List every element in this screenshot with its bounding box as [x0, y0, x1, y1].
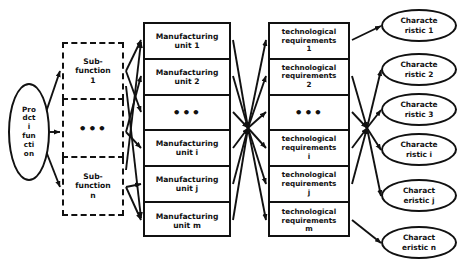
characteristic-label-line: Characte [400, 16, 437, 25]
technological-requirement-label-line: 1 [306, 45, 311, 54]
manufacturing-unit-label-line: Manufacturing [156, 139, 219, 148]
characteristic-label-line: Charact [403, 233, 435, 242]
process-flow-diagram: Pro dct i fun cti on Sub- function 1 •••… [0, 0, 463, 264]
characteristic-label-line: ristic 3 [405, 110, 434, 119]
subfunction-label-line: n [90, 191, 95, 200]
characteristic-label-line: Characte [400, 100, 437, 109]
technological-requirement-label-line: m [305, 225, 313, 234]
characteristic-label-line: ristic 2 [405, 70, 434, 79]
technological-requirement-cell[interactable]: technological requirements 1 [270, 24, 348, 60]
ellipsis-icon: ••• [78, 122, 107, 135]
technological-requirement-cell[interactable]: technological requirements 2 [270, 60, 348, 96]
characteristic-node[interactable]: Charact eristic n [381, 226, 457, 259]
characteristic-label-line: Charact [403, 186, 435, 195]
characteristic-node[interactable]: Characte ristic i [381, 133, 457, 166]
subfunction-cell[interactable]: Sub- function 1 [62, 42, 124, 100]
subfunction-label-line: Sub- [83, 172, 102, 181]
manufacturing-unit-label-line: unit j [176, 184, 198, 193]
characteristic-node[interactable]: Charact eristic j [381, 179, 457, 212]
characteristic-node[interactable]: Characte ristic 2 [381, 53, 457, 86]
manufacturing-unit-label-line: Manufacturing [156, 32, 219, 41]
subfunction-label-line: 1 [90, 76, 95, 85]
manufacturing-unit-cell-ellipsis[interactable]: ••• [145, 96, 229, 132]
manufacturing-unit-label-line: Manufacturing [156, 68, 219, 77]
manufacturing-unit-label-line: unit m [173, 221, 201, 230]
subfunction-cell-ellipsis[interactable]: ••• [62, 100, 124, 158]
product-function-node[interactable]: Pro dct i fun cti on [8, 83, 50, 181]
subfunction-cell[interactable]: Sub- function n [62, 158, 124, 216]
node-layer: Pro dct i fun cti on Sub- function 1 •••… [0, 0, 463, 264]
characteristic-node[interactable]: Characte ristic 1 [381, 9, 457, 42]
product-function-line: on [24, 150, 34, 159]
technological-requirement-cell-ellipsis[interactable]: ••• [270, 96, 348, 132]
manufacturing-unit-cell[interactable]: Manufacturing unit 1 [145, 24, 229, 60]
ellipsis-icon: ••• [172, 106, 201, 119]
characteristic-label-line: Characte [400, 60, 437, 69]
manufacturing-unit-cell[interactable]: Manufacturing unit i [145, 131, 229, 167]
technological-requirement-cell[interactable]: technological requirements j [270, 167, 348, 203]
characteristic-node[interactable]: Characte ristic 3 [381, 93, 457, 126]
characteristic-label-line: ristic 1 [405, 26, 434, 35]
characteristic-label-line: ristic i [406, 150, 432, 159]
technological-requirement-label-line: 2 [306, 81, 311, 90]
manufacturing-unit-cell[interactable]: Manufacturing unit m [145, 203, 229, 239]
ellipsis-icon: ••• [294, 106, 323, 119]
manufacturing-unit-column: Manufacturing unit 1 Manufacturing unit … [143, 22, 231, 237]
technological-requirement-label-line: j [308, 189, 310, 198]
characteristic-label-line: eristic j [403, 196, 434, 205]
technological-requirement-column: technological requirements 1 technologic… [268, 22, 350, 237]
technological-requirement-cell[interactable]: technological requirements i [270, 131, 348, 167]
subfunction-label-line: function [75, 66, 110, 75]
manufacturing-unit-cell[interactable]: Manufacturing unit 2 [145, 60, 229, 96]
manufacturing-unit-label-line: unit i [176, 148, 198, 157]
manufacturing-unit-label-line: unit 1 [175, 41, 200, 50]
manufacturing-unit-label-line: Manufacturing [156, 212, 219, 221]
characteristic-label-line: eristic n [402, 243, 436, 252]
technological-requirement-cell[interactable]: technological requirements m [270, 203, 348, 239]
technological-requirement-label-line: i [308, 153, 310, 162]
subfunction-label-line: function [75, 181, 110, 190]
subfunction-label-line: Sub- [83, 57, 102, 66]
manufacturing-unit-label-line: unit 2 [175, 77, 200, 86]
manufacturing-unit-label-line: Manufacturing [156, 175, 219, 184]
manufacturing-unit-cell[interactable]: Manufacturing unit j [145, 167, 229, 203]
characteristic-label-line: Characte [400, 140, 437, 149]
subfunction-column: Sub- function 1 ••• Sub- function n [62, 42, 124, 216]
